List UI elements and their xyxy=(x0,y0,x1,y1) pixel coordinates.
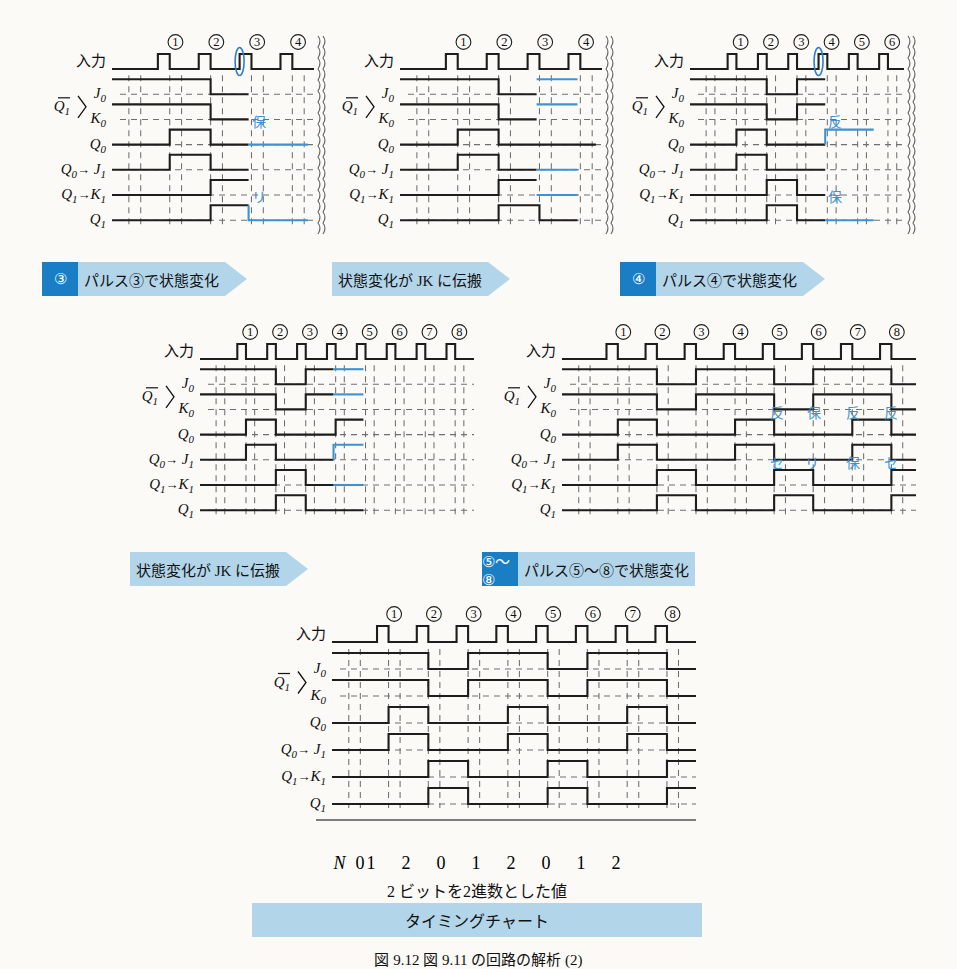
svg-text:8: 8 xyxy=(456,325,462,339)
svg-text:6: 6 xyxy=(889,35,895,49)
pulse-marker: 5 xyxy=(546,607,561,622)
svg-text:4: 4 xyxy=(828,35,835,49)
label-q1: Q1 xyxy=(378,211,394,230)
torn-edge xyxy=(606,36,608,234)
label-input: 入力 xyxy=(526,343,556,359)
pulse-marker: 6 xyxy=(811,325,826,340)
pulse-marker: 1 xyxy=(733,35,748,50)
pulse-marker: 1 xyxy=(243,325,258,340)
svg-text:6: 6 xyxy=(396,325,402,339)
svg-text:3: 3 xyxy=(307,325,313,339)
svg-text:5: 5 xyxy=(367,325,373,339)
torn-edge xyxy=(913,36,915,234)
pulse-marker: 6 xyxy=(885,35,900,50)
label-q0: Q0 xyxy=(668,136,685,155)
svg-text:8: 8 xyxy=(669,607,675,621)
timing-panel-3: 123456入力J0K0Q1反Q0Q0→ J1Q1→K1保Q1 xyxy=(620,28,920,256)
label-q1: Q1 xyxy=(90,211,106,230)
svg-text:2: 2 xyxy=(768,35,774,49)
pulse-marker: 4 xyxy=(824,35,839,50)
waveform-q1_k1 xyxy=(400,180,537,195)
label-qbar1: Q1 xyxy=(54,98,70,117)
pulse-marker: 2 xyxy=(655,325,670,340)
torn-edge xyxy=(318,36,320,234)
brace-icon xyxy=(78,96,86,118)
n-value: 0 xyxy=(356,853,365,874)
pulse-marker: 2 xyxy=(497,35,512,50)
pulse-marker: 5 xyxy=(772,325,787,340)
annotation-q0: 反 xyxy=(828,115,842,130)
timing-panel-2: 1234入力J0K0Q1Q0Q0→ J1Q1→K1Q1 xyxy=(330,28,618,256)
label-j0: J0 xyxy=(182,375,195,394)
n-value: 0 xyxy=(437,853,446,874)
svg-text:4: 4 xyxy=(737,325,744,339)
waveform-q1_k1 xyxy=(562,470,916,485)
waveform-q0_j1 xyxy=(112,155,249,170)
waveform-j0 xyxy=(690,79,825,94)
timing-diagram: 12345678入力J0K0Q1反保反反Q0Q0→ J1セリ保セQ1→K1Q1 xyxy=(492,318,922,546)
label-k0: K0 xyxy=(539,400,556,419)
annotation-q0: 反 xyxy=(770,406,784,421)
caption-text: 状態変化が JK に伝搬 xyxy=(130,552,286,586)
annotation-q0: 反 xyxy=(846,406,860,421)
label-q0-j1: Q0→ J1 xyxy=(511,451,556,470)
waveform-k0 xyxy=(562,394,916,409)
waveform-q1 xyxy=(562,495,916,510)
label-j0: J0 xyxy=(672,85,685,104)
waveform-j0 xyxy=(112,79,249,94)
label-k0: K0 xyxy=(89,110,106,129)
waveform-q0_j1 xyxy=(400,155,537,170)
pulse-marker: 8 xyxy=(889,325,904,340)
figure-caption: 図 9.12 図 9.11 の回路の解析 (2) xyxy=(0,948,957,969)
waveform-input xyxy=(562,344,916,359)
pulse-marker: 7 xyxy=(850,325,865,340)
brace-icon xyxy=(528,386,536,408)
caption-text: パルス④で状態変化 xyxy=(656,262,803,296)
caption-arrow-icon xyxy=(286,552,308,586)
svg-text:1: 1 xyxy=(391,607,397,621)
svg-text:3: 3 xyxy=(542,35,548,49)
waveform-q0_j1 xyxy=(332,734,696,750)
svg-text:1: 1 xyxy=(460,35,466,49)
pulse-marker: 4 xyxy=(291,35,306,50)
waveform-k0 xyxy=(332,680,696,696)
waveform-q1_k1 xyxy=(112,180,249,195)
waveform-q1 xyxy=(690,205,825,220)
label-q0: Q0 xyxy=(90,136,107,155)
svg-text:2: 2 xyxy=(213,35,219,49)
brace-icon xyxy=(166,386,174,408)
timing-panel-6: 12345678入力J0K0Q1反保反反Q0Q0→ J1セリ保セQ1→K1Q1 xyxy=(492,318,922,546)
label-q0-j1: Q0→ J1 xyxy=(281,741,326,760)
waveform-q0 xyxy=(332,707,696,723)
caption-badge: ④ xyxy=(620,262,656,296)
label-q0: Q0 xyxy=(310,714,327,733)
waveform-q1_k1 xyxy=(200,470,334,485)
svg-text:1: 1 xyxy=(172,35,178,49)
caption-arrow-icon xyxy=(225,262,247,296)
label-k0: K0 xyxy=(377,110,394,129)
waveform-q0 xyxy=(562,420,916,435)
waveform-j0 xyxy=(562,369,916,384)
n-value: 2 xyxy=(402,853,411,874)
pulse-marker: 3 xyxy=(694,325,709,340)
caption-jk-2: 状態変化が JK に伝搬 xyxy=(130,552,480,586)
timing-chart-bar: タイミングチャート xyxy=(252,903,702,937)
waveform-q0 xyxy=(690,130,825,145)
label-q1-k1: Q1→K1 xyxy=(149,476,194,495)
caption-badge: ⑤〜⑧ xyxy=(482,552,518,586)
svg-text:1: 1 xyxy=(247,325,253,339)
svg-text:1: 1 xyxy=(620,325,626,339)
pulse-marker: 4 xyxy=(332,325,347,340)
caption-text: パルス⑤〜⑧で状態変化 xyxy=(518,552,695,586)
label-k0: K0 xyxy=(667,110,684,129)
torn-edge xyxy=(611,36,613,234)
annotation-q0: 保 xyxy=(252,115,266,130)
svg-text:4: 4 xyxy=(510,607,517,621)
label-input: 入力 xyxy=(76,53,106,69)
n-value: 2 xyxy=(507,853,516,874)
label-input: 入力 xyxy=(164,343,194,359)
label-q0-j1: Q0→ J1 xyxy=(349,161,394,180)
waveform-q1_k1 xyxy=(332,761,696,777)
label-q1: Q1 xyxy=(540,501,556,520)
caption-arrow-icon xyxy=(803,262,825,296)
